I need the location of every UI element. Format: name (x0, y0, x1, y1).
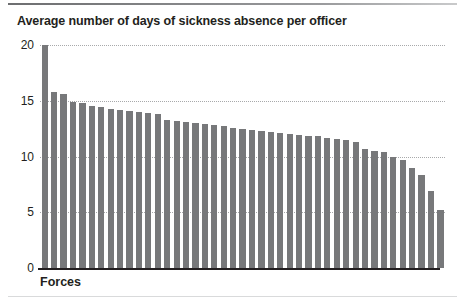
y-axis-tick-label: 20 (4, 38, 34, 52)
bar (70, 102, 76, 268)
bar (409, 168, 415, 268)
bar (145, 113, 151, 268)
bar-slot (257, 45, 266, 268)
bar (42, 45, 48, 268)
bar-slot (191, 45, 200, 268)
bar (305, 136, 311, 268)
bottom-divider (8, 296, 457, 297)
bar-slot (332, 45, 341, 268)
bar (353, 142, 359, 268)
bar (315, 136, 321, 268)
bar (334, 139, 340, 268)
bar (136, 112, 142, 268)
bar-slot (379, 45, 388, 268)
bar (400, 160, 406, 268)
bar-slot (351, 45, 360, 268)
bar (381, 152, 387, 268)
bar-slot (417, 45, 426, 268)
bar (155, 114, 161, 268)
y-axis-tick-label: 0 (4, 261, 34, 275)
bar-slot (97, 45, 106, 268)
bar-slot (370, 45, 379, 268)
top-divider (8, 3, 457, 5)
bar (79, 103, 85, 268)
y-axis-tick-label: 10 (4, 150, 34, 164)
bar (239, 129, 245, 268)
chart-title: Average number of days of sickness absen… (17, 14, 347, 28)
bar-slot (78, 45, 87, 268)
bar-slot (153, 45, 162, 268)
bar-slot (407, 45, 416, 268)
bar-slot (360, 45, 369, 268)
bar (324, 138, 330, 268)
bar (60, 94, 66, 268)
bar-slot (162, 45, 171, 268)
bar (296, 135, 302, 268)
bar-slot (389, 45, 398, 268)
bar (89, 106, 95, 268)
bar-slot (342, 45, 351, 268)
x-axis-line (38, 268, 440, 270)
bar-slot (266, 45, 275, 268)
bar (126, 111, 132, 268)
x-axis-label: Forces (40, 275, 81, 289)
bar-slot (87, 45, 96, 268)
bar (362, 149, 368, 268)
bar (390, 157, 396, 269)
bar-slot (106, 45, 115, 268)
bar (343, 140, 349, 268)
bar (418, 175, 424, 268)
y-axis-tick-label: 15 (4, 94, 34, 108)
bar-slot (200, 45, 209, 268)
bar (211, 125, 217, 268)
bar (249, 130, 255, 268)
bar-slot (68, 45, 77, 268)
bar-slot (304, 45, 313, 268)
bar-slot (276, 45, 285, 268)
bar (277, 133, 283, 268)
bar-slot (228, 45, 237, 268)
bar-slot (247, 45, 256, 268)
bar (192, 123, 198, 268)
y-axis-tick-label: 5 (4, 205, 34, 219)
bar-slot (313, 45, 322, 268)
bar-slot (40, 45, 49, 268)
bar-slot (219, 45, 228, 268)
bar-series (40, 45, 445, 268)
bar-slot (238, 45, 247, 268)
bar (117, 110, 123, 268)
bar-slot (49, 45, 58, 268)
bar-slot (210, 45, 219, 268)
bar-slot (294, 45, 303, 268)
bar (108, 109, 114, 268)
bar-slot (436, 45, 445, 268)
bar (174, 121, 180, 268)
bar (183, 122, 189, 268)
bar (428, 191, 434, 268)
bar-slot (285, 45, 294, 268)
bar (287, 134, 293, 268)
bar (268, 132, 274, 268)
bar (437, 210, 443, 268)
bar-slot (125, 45, 134, 268)
bar (164, 120, 170, 268)
bar-slot (398, 45, 407, 268)
bar-slot (115, 45, 124, 268)
bar (230, 128, 236, 268)
bar (98, 107, 104, 268)
bar-slot (323, 45, 332, 268)
bar (258, 131, 264, 268)
y-axis-tick-labels: 05101520 (0, 0, 34, 305)
bar (221, 126, 227, 268)
bar-slot (144, 45, 153, 268)
bar (371, 151, 377, 268)
bar-slot (426, 45, 435, 268)
bar-slot (59, 45, 68, 268)
bar-slot (134, 45, 143, 268)
bar (202, 124, 208, 268)
bar (51, 92, 57, 268)
plot-area (40, 45, 445, 268)
bar-slot (172, 45, 181, 268)
chart-figure: Average number of days of sickness absen… (0, 0, 465, 305)
bar-slot (181, 45, 190, 268)
